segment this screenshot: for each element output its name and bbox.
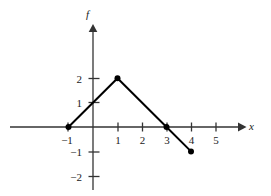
y-tick-label-neg1: −1 xyxy=(62,147,82,158)
data-point-1 xyxy=(115,75,121,81)
x-tick-label-2: 2 xyxy=(140,135,146,146)
y-axis-label: f xyxy=(86,9,89,20)
y-tick-label-2: 2 xyxy=(68,74,82,85)
x-tick-label-neg1: −1 xyxy=(61,135,73,146)
x-axis-label: x xyxy=(249,121,254,132)
data-point-2 xyxy=(164,124,170,130)
data-point-3 xyxy=(188,148,194,154)
data-point-markers xyxy=(66,75,195,154)
data-point-0 xyxy=(66,124,72,130)
y-tick-label-neg2: −2 xyxy=(62,172,82,183)
x-tick-label-1: 1 xyxy=(115,135,121,146)
x-axis-arrowhead xyxy=(238,123,247,132)
x-tick-label-4: 4 xyxy=(189,135,195,146)
y-axis-arrowhead xyxy=(89,24,98,32)
x-tick-label-3: 3 xyxy=(164,135,170,146)
plot-canvas xyxy=(0,0,271,196)
function-curve xyxy=(69,78,192,151)
function-graph-figure: f x 2 1 −1 −2 −1 1 2 3 4 5 xyxy=(0,0,271,196)
y-tick-label-1: 1 xyxy=(68,98,82,109)
x-tick-label-5: 5 xyxy=(213,135,219,146)
x-axis xyxy=(10,123,247,132)
